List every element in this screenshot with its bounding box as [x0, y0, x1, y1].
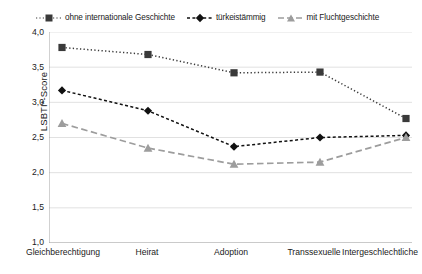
- legend-label-2: türkeistämmig: [216, 13, 266, 23]
- legend-label-3: mit Fluchtgeschichte: [307, 13, 380, 23]
- x-tick-label-adoption: Adoption: [214, 248, 248, 257]
- y-tick-label-1-5: 1,5: [10, 203, 44, 212]
- series-2: [58, 86, 410, 150]
- y-tick-label-4-0: 4,0: [10, 28, 44, 37]
- y-tick-label-3-0: 3,0: [10, 98, 44, 107]
- lsbti-score-line-chart: ohne internationale Geschichte türkeistä…: [0, 0, 422, 274]
- legend-label-1: ohne internationale Geschichte: [65, 13, 175, 23]
- plot-svg: [49, 32, 412, 243]
- y-tick-label-1-0: 1,0: [10, 238, 44, 247]
- x-tick-label-transsexuelle: Transsexuelle: [287, 248, 340, 257]
- y-axis-tick-labels: 4,0 3,5 3,0 2,5 2,0 1,5 1,0: [8, 32, 44, 243]
- legend-entry-mit-fluchtgeschichte: mit Fluchtgeschichte: [278, 13, 380, 23]
- legend-sample-square-dotted-icon: [36, 13, 62, 23]
- gridlines: [49, 32, 412, 243]
- x-tick-label-intergeschlechtliche: Intergeschlechtliche: [342, 248, 418, 257]
- legend-entry-tuerkeistaemmig: türkeistämmig: [187, 13, 266, 23]
- data-point-marker: [58, 44, 65, 51]
- data-point-marker: [58, 119, 67, 127]
- data-point-marker: [402, 115, 409, 122]
- data-point-marker: [230, 143, 238, 151]
- x-axis-tick-labels: Gleichberechtigung Heirat Adoption Trans…: [0, 248, 422, 262]
- legend-sample-diamond-dashed-icon: [187, 13, 213, 23]
- x-tick-label-heirat: Heirat: [136, 248, 159, 257]
- legend-sample-triangle-dashed-icon: [278, 13, 304, 23]
- plot-area: [49, 32, 412, 243]
- data-point-marker: [316, 68, 323, 75]
- chart-legend: ohne internationale Geschichte türkeistä…: [36, 10, 416, 26]
- data-point-marker: [316, 133, 324, 141]
- y-tick-label-3-5: 3,5: [10, 63, 44, 72]
- legend-entry-ohne-internationale-geschichte: ohne internationale Geschichte: [36, 13, 175, 23]
- series-line: [62, 47, 406, 118]
- data-point-marker: [58, 86, 66, 94]
- data-point-marker: [144, 107, 152, 115]
- y-tick-label-2-5: 2,5: [10, 133, 44, 142]
- data-point-marker: [144, 51, 151, 58]
- data-point-marker: [230, 69, 237, 76]
- x-tick-label-gleichberechtigung: Gleichberechtigung: [26, 248, 100, 257]
- series-1: [58, 44, 409, 122]
- series-layer: [58, 44, 411, 168]
- y-tick-label-2-0: 2,0: [10, 168, 44, 177]
